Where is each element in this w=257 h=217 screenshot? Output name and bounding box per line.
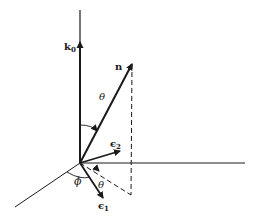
n-label: n: [115, 62, 122, 72]
epsilon1-label: є1: [98, 201, 109, 212]
theta-label-upper: θ: [99, 92, 105, 102]
epsilon2-label-sub: 2: [116, 142, 121, 151]
n-vector: [80, 64, 132, 163]
vector-diagram: k0 n θ є2 ϕ θ є1: [0, 0, 257, 217]
phi-label: ϕ: [74, 176, 82, 187]
epsilon1-label-sub: 1: [104, 204, 109, 213]
k0-label-main: k: [64, 41, 71, 52]
theta-arc-upper: [80, 125, 97, 131]
theta-arc-lower: [93, 169, 99, 171]
k0-label-sub: 0: [71, 45, 76, 54]
x-axis: [15, 163, 80, 207]
projection-ground-dashed: [80, 163, 131, 195]
diagram-canvas: [0, 0, 257, 217]
epsilon2-label: є2: [110, 139, 121, 150]
projection-vertical-dashed: [131, 64, 132, 195]
k0-label: k0: [64, 42, 76, 53]
theta-label-lower: θ: [98, 180, 104, 190]
